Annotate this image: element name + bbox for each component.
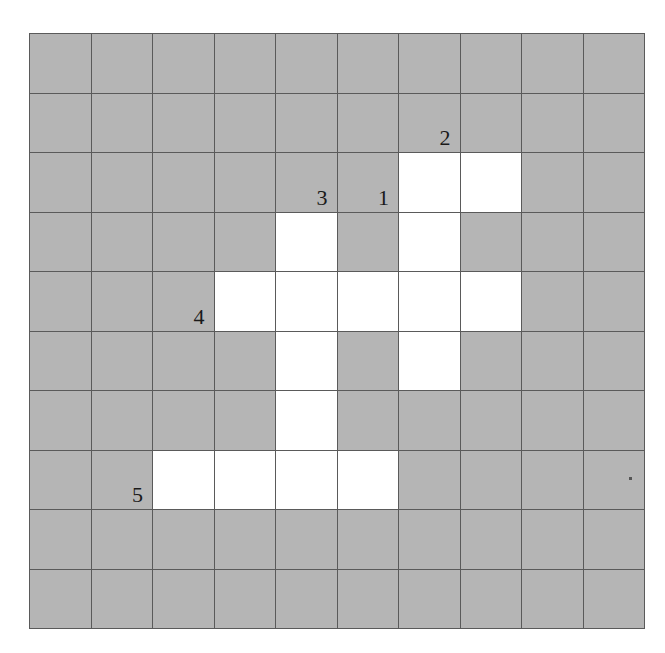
grid-cell-open-r3-c4[interactable]: [276, 212, 338, 272]
grid-cell-shaded-r9-c9[interactable]: [583, 569, 645, 629]
grid-cell-shaded-r5-c0[interactable]: [30, 331, 92, 391]
grid-cell-shaded-r0-c1[interactable]: [91, 34, 153, 94]
grid-cell-open-r4-c4[interactable]: [276, 272, 338, 332]
grid-cell-shaded-r8-c7[interactable]: [460, 510, 522, 570]
grid-cell-shaded-r0-c8[interactable]: [522, 34, 584, 94]
grid-cell-shaded-r1-c6[interactable]: 2: [399, 93, 461, 153]
grid-cell-shaded-r9-c8[interactable]: [522, 569, 584, 629]
grid-cell-shaded-r8-c8[interactable]: [522, 510, 584, 570]
grid-cell-shaded-r7-c7[interactable]: [460, 450, 522, 510]
grid-cell-shaded-r7-c8[interactable]: [522, 450, 584, 510]
grid-cell-shaded-r5-c5[interactable]: [337, 331, 399, 391]
grid-cell-shaded-r5-c3[interactable]: [214, 331, 276, 391]
grid-cell-shaded-r9-c5[interactable]: [337, 569, 399, 629]
grid-cell-shaded-r0-c5[interactable]: [337, 34, 399, 94]
grid-cell-shaded-r9-c3[interactable]: [214, 569, 276, 629]
grid-cell-open-r2-c7[interactable]: [460, 153, 522, 213]
grid-cell-shaded-r8-c0[interactable]: [30, 510, 92, 570]
grid-cell-shaded-r0-c9[interactable]: [583, 34, 645, 94]
grid-cell-shaded-r1-c5[interactable]: [337, 93, 399, 153]
grid-cell-shaded-r1-c7[interactable]: [460, 93, 522, 153]
grid-cell-shaded-r8-c5[interactable]: [337, 510, 399, 570]
grid-cell-open-r4-c7[interactable]: [460, 272, 522, 332]
grid-cell-shaded-r9-c0[interactable]: [30, 569, 92, 629]
grid-cell-open-r2-c6[interactable]: [399, 153, 461, 213]
grid-cell-open-r7-c5[interactable]: [337, 450, 399, 510]
grid-cell-shaded-r7-c1[interactable]: 5: [91, 450, 153, 510]
grid-cell-shaded-r2-c5[interactable]: 1: [337, 153, 399, 213]
grid-cell-shaded-r8-c2[interactable]: [153, 510, 215, 570]
grid-cell-shaded-r4-c8[interactable]: [522, 272, 584, 332]
grid-cell-open-r5-c4[interactable]: [276, 331, 338, 391]
grid-cell-shaded-r1-c1[interactable]: [91, 93, 153, 153]
grid-cell-shaded-r6-c9[interactable]: [583, 391, 645, 451]
grid-cell-shaded-r7-c0[interactable]: [30, 450, 92, 510]
grid-cell-open-r7-c2[interactable]: [153, 450, 215, 510]
grid-cell-shaded-r6-c2[interactable]: [153, 391, 215, 451]
grid-cell-shaded-r5-c1[interactable]: [91, 331, 153, 391]
grid-cell-shaded-r7-c9[interactable]: [583, 450, 645, 510]
grid-cell-shaded-r1-c2[interactable]: [153, 93, 215, 153]
grid-cell-open-r7-c4[interactable]: [276, 450, 338, 510]
grid-cell-shaded-r6-c5[interactable]: [337, 391, 399, 451]
grid-cell-shaded-r5-c9[interactable]: [583, 331, 645, 391]
grid-cell-shaded-r8-c6[interactable]: [399, 510, 461, 570]
grid-cell-shaded-r4-c9[interactable]: [583, 272, 645, 332]
grid-cell-shaded-r9-c6[interactable]: [399, 569, 461, 629]
grid-cell-shaded-r1-c4[interactable]: [276, 93, 338, 153]
grid-cell-shaded-r2-c2[interactable]: [153, 153, 215, 213]
grid-cell-shaded-r6-c3[interactable]: [214, 391, 276, 451]
grid-cell-shaded-r6-c1[interactable]: [91, 391, 153, 451]
grid-cell-shaded-r3-c5[interactable]: [337, 212, 399, 272]
grid-cell-shaded-r1-c3[interactable]: [214, 93, 276, 153]
grid-cell-shaded-r2-c3[interactable]: [214, 153, 276, 213]
grid-cell-open-r5-c6[interactable]: [399, 331, 461, 391]
grid-cell-shaded-r5-c7[interactable]: [460, 331, 522, 391]
grid-cell-shaded-r1-c9[interactable]: [583, 93, 645, 153]
grid-cell-shaded-r2-c4[interactable]: 3: [276, 153, 338, 213]
grid-cell-shaded-r0-c0[interactable]: [30, 34, 92, 94]
grid-cell-shaded-r3-c1[interactable]: [91, 212, 153, 272]
grid-cell-shaded-r0-c3[interactable]: [214, 34, 276, 94]
grid-cell-shaded-r1-c8[interactable]: [522, 93, 584, 153]
grid-cell-shaded-r6-c0[interactable]: [30, 391, 92, 451]
grid-cell-shaded-r8-c4[interactable]: [276, 510, 338, 570]
grid-cell-shaded-r2-c1[interactable]: [91, 153, 153, 213]
grid-cell-shaded-r7-c6[interactable]: [399, 450, 461, 510]
grid-cell-shaded-r3-c2[interactable]: [153, 212, 215, 272]
grid-cell-shaded-r9-c2[interactable]: [153, 569, 215, 629]
grid-cell-shaded-r1-c0[interactable]: [30, 93, 92, 153]
grid-cell-open-r3-c6[interactable]: [399, 212, 461, 272]
grid-cell-shaded-r4-c2[interactable]: 4: [153, 272, 215, 332]
grid-cell-shaded-r0-c7[interactable]: [460, 34, 522, 94]
grid-cell-shaded-r3-c7[interactable]: [460, 212, 522, 272]
grid-cell-shaded-r0-c4[interactable]: [276, 34, 338, 94]
grid-cell-shaded-r8-c3[interactable]: [214, 510, 276, 570]
grid-cell-open-r6-c4[interactable]: [276, 391, 338, 451]
grid-cell-shaded-r9-c4[interactable]: [276, 569, 338, 629]
grid-cell-shaded-r6-c8[interactable]: [522, 391, 584, 451]
grid-cell-shaded-r5-c2[interactable]: [153, 331, 215, 391]
grid-cell-shaded-r8-c1[interactable]: [91, 510, 153, 570]
grid-cell-open-r4-c6[interactable]: [399, 272, 461, 332]
grid-cell-shaded-r2-c8[interactable]: [522, 153, 584, 213]
grid-cell-shaded-r3-c3[interactable]: [214, 212, 276, 272]
grid-cell-shaded-r2-c9[interactable]: [583, 153, 645, 213]
grid-cell-open-r7-c3[interactable]: [214, 450, 276, 510]
grid-cell-shaded-r6-c7[interactable]: [460, 391, 522, 451]
grid-cell-shaded-r4-c1[interactable]: [91, 272, 153, 332]
grid-cell-shaded-r8-c9[interactable]: [583, 510, 645, 570]
grid-cell-shaded-r0-c2[interactable]: [153, 34, 215, 94]
grid-cell-shaded-r9-c7[interactable]: [460, 569, 522, 629]
grid-cell-shaded-r3-c8[interactable]: [522, 212, 584, 272]
grid-cell-shaded-r5-c8[interactable]: [522, 331, 584, 391]
grid-cell-open-r4-c5[interactable]: [337, 272, 399, 332]
grid-cell-shaded-r9-c1[interactable]: [91, 569, 153, 629]
grid-cell-shaded-r2-c0[interactable]: [30, 153, 92, 213]
grid-cell-open-r4-c3[interactable]: [214, 272, 276, 332]
grid-cell-shaded-r3-c9[interactable]: [583, 212, 645, 272]
grid-cell-shaded-r3-c0[interactable]: [30, 212, 92, 272]
grid-cell-shaded-r0-c6[interactable]: [399, 34, 461, 94]
grid-cell-shaded-r6-c6[interactable]: [399, 391, 461, 451]
grid-cell-shaded-r4-c0[interactable]: [30, 272, 92, 332]
